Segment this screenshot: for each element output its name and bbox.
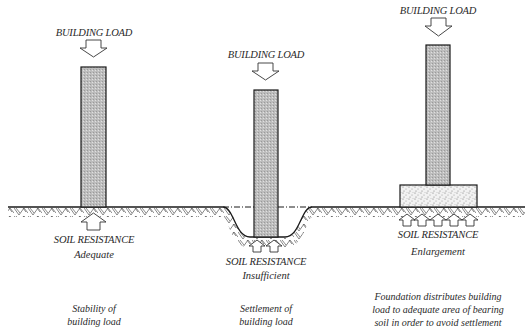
caption-line: Settlement of <box>239 302 293 315</box>
panel-enlargement <box>355 18 525 226</box>
resistance-state-insufficient: Insufficient <box>242 270 289 281</box>
spread-footing <box>400 185 477 207</box>
resistance-state-adequate: Adequate <box>74 249 114 260</box>
resistance-state-enlargement: Enlargement <box>411 246 465 257</box>
load-label-adequate: BUILDING LOAD <box>56 27 132 38</box>
load-label-enlargement: BUILDING LOAD <box>400 5 476 16</box>
caption-line: building load <box>67 315 121 328</box>
resistance-label-adequate: SOIL RESISTANCE <box>54 234 134 245</box>
caption-enlargement: Foundation distributes building load to … <box>372 290 504 329</box>
column-insufficient <box>254 90 278 237</box>
caption-line: soil in order to avoid settlement <box>372 316 504 329</box>
caption-adequate: Stability of building load <box>67 302 121 328</box>
panel-adequate <box>80 40 107 230</box>
resistance-label-enlargement: SOIL RESISTANCE <box>398 229 478 240</box>
caption-line: Foundation distributes building <box>372 290 504 303</box>
load-label-insufficient: BUILDING LOAD <box>228 49 304 60</box>
caption-insufficient: Settlement of building load <box>239 302 293 328</box>
resistance-label-insufficient: SOIL RESISTANCE <box>226 256 306 267</box>
caption-line: load to adequate area of bearing <box>372 303 504 316</box>
down-block-arrow-icon <box>252 63 279 80</box>
caption-line: Stability of <box>67 302 121 315</box>
caption-line: building load <box>239 315 293 328</box>
column-adequate <box>81 67 106 207</box>
column-enlargement <box>426 45 450 185</box>
down-block-arrow-icon <box>80 40 107 57</box>
panel-insufficient <box>178 63 355 252</box>
down-block-arrow-icon <box>425 18 452 36</box>
